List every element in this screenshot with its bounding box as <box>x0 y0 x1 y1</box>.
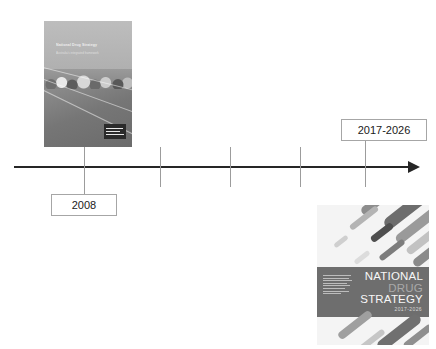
timeline-figure: National Drug Strategy Australia's integ… <box>0 0 436 349</box>
cover-heading-line-1: NATIONAL <box>360 271 423 283</box>
document-cover-second: NATIONAL DRUG STRATEGY 2017-2026 <box>317 205 429 345</box>
cover-second-body-text <box>323 275 353 296</box>
cover-heading-line-3: STRATEGY <box>360 294 423 306</box>
crest-icon <box>104 124 126 139</box>
arrow-head-icon <box>408 161 420 173</box>
year-label-2008-text: 2008 <box>72 200 96 211</box>
document-cover-first: National Drug Strategy Australia's integ… <box>44 21 132 147</box>
timeline-tick-5 <box>365 147 366 187</box>
cover-second-years: 2017-2026 <box>394 306 422 312</box>
timeline-tick-3 <box>230 147 231 187</box>
cover-first-title: National Drug Strategy <box>56 43 112 48</box>
timeline-tick-1 <box>84 147 85 187</box>
year-label-2017-2026: 2017-2026 <box>341 119 427 141</box>
timeline-tick-4 <box>300 147 301 187</box>
year-label-2008: 2008 <box>51 194 117 216</box>
year-label-2017-2026-text: 2017-2026 <box>358 125 411 136</box>
timeline-tick-2 <box>160 147 161 187</box>
cover-second-heading: NATIONAL DRUG STRATEGY <box>360 271 423 306</box>
connector-2017-2026 <box>365 140 366 148</box>
timeline-axis <box>14 166 410 168</box>
cover-first-subtitle: Australia's integrated framework <box>56 52 108 56</box>
